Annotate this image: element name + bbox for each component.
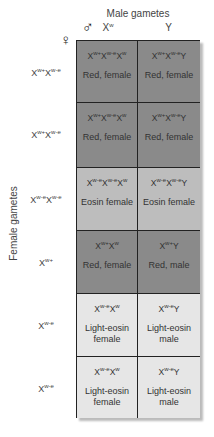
row-label-female-gamete: Xw+Xw-e [20,68,72,78]
punnett-cell: Xw-eXw-eXwEosin female [77,168,138,231]
phenotype: Eosin female [138,197,200,208]
female-gametes-title: Female gametes [8,181,19,267]
phenotype: Light-eosin male [138,323,200,345]
phenotype: Red, male [138,260,200,271]
punnett-cell: Xw+Xw-eYRed, female [138,103,200,168]
genotype: Xw-eXw [77,304,137,314]
punnett-cell: Xw+YRed, male [138,231,200,294]
phenotype: Light-eosin male [138,386,200,408]
phenotype: Eosin female [77,197,137,208]
punnett-cell: Xw-eXwLight-eosin female [77,357,138,418]
punnett-square: Xw+Xw-eXwRed, femaleXw+Xw-eYRed, femaleX… [76,40,200,418]
female-symbol-icon: ♀ [60,32,71,48]
genotype: Xw+Y [138,241,200,251]
genotype: Xw-eXw-eXw [77,178,137,188]
column-header-xw: Xw [88,22,128,33]
male-gametes-title: Male gametes [76,8,200,19]
genotype: Xw+Xw-eY [138,51,200,61]
punnett-cell: Xw-eYLight-eosin male [138,357,200,418]
phenotype: Red, female [77,70,137,81]
column-header-y: Y [137,22,200,33]
punnett-cell: Xw-eXwLight-eosin female [77,294,138,357]
phenotype: Red, female [138,132,200,143]
phenotype: Red, female [77,260,137,271]
phenotype: Red, female [77,132,137,143]
phenotype: Red, female [138,70,200,81]
genotype: Xw+Xw-eXw [77,51,137,61]
genotype: Xw+Xw-eY [138,113,200,123]
row-label-female-gamete: Xw+ [20,258,72,268]
genotype: Xw-eY [138,367,200,377]
punnett-cell: Xw+Xw-eXwRed, female [77,103,138,168]
genotype: Xw-eXw-eY [138,178,200,188]
row-label-female-gamete: Xw-e [20,384,72,394]
genotype: Xw+Xw-eXw [77,113,137,123]
punnett-cell: Xw-eXw-eYEosin female [138,168,200,231]
punnett-cell: Xw-eYLight-eosin male [138,294,200,357]
genotype: Xw-eY [138,304,200,314]
punnett-cell: Xw+XwRed, female [77,231,138,294]
genotype: Xw-eXw [77,367,137,377]
row-label-female-gamete: Xw+Xw-e [20,130,72,140]
phenotype: Light-eosin female [77,386,137,408]
row-label-female-gamete: Xw-eXw-e [20,195,72,205]
genotype: Xw+Xw [77,241,137,251]
row-label-female-gamete: Xw-e [20,321,72,331]
phenotype: Light-eosin female [77,323,137,345]
punnett-cell: Xw+Xw-eYRed, female [138,41,200,103]
punnett-cell: Xw+Xw-eXwRed, female [77,41,138,103]
